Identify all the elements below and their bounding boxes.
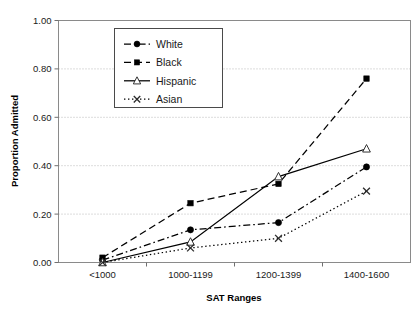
y-tick-label: 0.60: [33, 112, 52, 123]
y-tick-label: 0.00: [33, 257, 52, 268]
y-tick-label: 0.40: [33, 160, 52, 171]
line-chart: 0.000.200.400.600.801.00 <10001000-11991…: [0, 0, 419, 314]
x-tick-label: 1200-1399: [256, 269, 301, 280]
marker-filled-square: [276, 181, 281, 186]
x-tick-label: 1000-1199: [168, 269, 213, 280]
y-tick-label: 0.80: [33, 63, 52, 74]
y-tick-label: 1.00: [33, 15, 52, 26]
marker-filled-square: [134, 60, 139, 65]
marker-filled-square: [188, 201, 193, 206]
legend-label: Asian: [156, 93, 182, 105]
chart-legend: WhiteBlackHispanicAsian: [115, 29, 223, 108]
y-axis-title: Proportion Admitted: [9, 95, 20, 187]
legend-label: Black: [156, 56, 182, 68]
chart-figure: 0.000.200.400.600.801.00 <10001000-11991…: [0, 0, 419, 314]
marker-filled-circle: [134, 41, 140, 47]
x-axis-title: SAT Ranges: [206, 292, 261, 303]
legend-label: Hispanic: [156, 75, 196, 87]
y-tick-label: 0.20: [33, 209, 52, 220]
x-tick-label: <1000: [89, 269, 116, 280]
x-tick-label: 1400-1600: [344, 269, 389, 280]
legend-label: White: [156, 38, 183, 50]
marker-filled-circle: [275, 219, 281, 225]
marker-filled-circle: [363, 164, 369, 170]
marker-filled-square: [364, 76, 369, 81]
marker-filled-circle: [187, 227, 193, 233]
